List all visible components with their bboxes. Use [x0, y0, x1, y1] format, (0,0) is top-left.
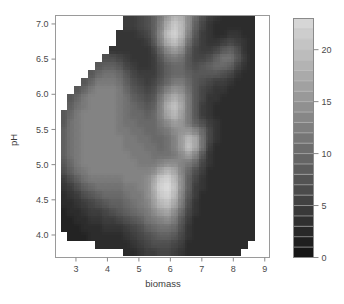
colorbar-band	[294, 185, 314, 196]
colorbar-band	[294, 237, 314, 248]
y-tick-label: 6.5	[36, 54, 49, 64]
x-tick-label: 4	[105, 264, 110, 274]
colorbar-band	[294, 70, 314, 81]
colorbar-band	[294, 81, 314, 92]
colorbar-band	[294, 102, 314, 113]
colorbar-tick-label: 10	[322, 149, 332, 159]
y-tick-label: 7.0	[36, 19, 49, 29]
colorbar-band	[294, 206, 314, 217]
colorbar-bands	[294, 19, 314, 258]
y-tick-label: 5.0	[36, 160, 49, 170]
colorbar-band	[294, 174, 314, 185]
colorbar-band	[294, 247, 314, 258]
colorbar-band	[294, 19, 314, 30]
x-tick-label: 6	[168, 264, 173, 274]
colorbar-band	[294, 164, 314, 175]
contour-plot-figure: 4.04.55.05.56.06.57.0 3456789 biomass pH…	[0, 0, 344, 304]
colorbar-band	[294, 50, 314, 61]
colorbar-band	[294, 133, 314, 144]
x-tick-label: 7	[199, 264, 204, 274]
colorbar-band	[294, 39, 314, 50]
colorbar-band	[294, 29, 314, 40]
y-tick-label: 4.0	[36, 230, 49, 240]
colorbar-band	[294, 112, 314, 123]
y-tick-label: 6.0	[36, 89, 49, 99]
colorbar-band	[294, 154, 314, 165]
colorbar-band	[294, 195, 314, 206]
colorbar-band	[294, 226, 314, 237]
colorbar-tick-label: 0	[322, 253, 327, 263]
colorbar-tick-label: 20	[322, 45, 332, 55]
y-tick-label: 5.5	[36, 125, 49, 135]
x-tick-label: 8	[231, 264, 236, 274]
x-tick-label: 5	[136, 264, 141, 274]
x-tick-label: 3	[73, 264, 78, 274]
x-tick-label: 9	[262, 264, 267, 274]
colorbar-band	[294, 91, 314, 102]
x-axis-title: biomass	[145, 278, 181, 289]
colorbar-band	[294, 216, 314, 227]
y-tick-label: 4.5	[36, 195, 49, 205]
colorbar-band	[294, 143, 314, 154]
colorbar-band	[294, 60, 314, 71]
y-axis-title: pH	[8, 134, 19, 146]
colorbar-tick-label: 15	[322, 97, 332, 107]
colorbar-tick-label: 5	[322, 201, 327, 211]
colorbar-band	[294, 122, 314, 133]
